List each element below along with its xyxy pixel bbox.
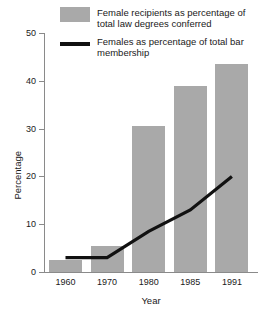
chart-figure: Female recipients as percentage of total… <box>0 0 263 318</box>
x-axis-title: Year <box>44 295 258 306</box>
x-tick-label: 1991 <box>210 277 254 287</box>
y-tick-label: 40 <box>14 76 36 86</box>
x-tick-label: 1980 <box>127 277 171 287</box>
y-tick-label: 50 <box>14 28 36 38</box>
x-tick-label: 1960 <box>44 277 88 287</box>
x-tick-label: 1985 <box>168 277 212 287</box>
line-series <box>44 33 258 273</box>
y-tick-label: 30 <box>14 124 36 134</box>
plot-area: Percentage 01020304050 19601970198019851… <box>44 33 258 273</box>
legend-bar-line2: total law degrees conferred <box>97 18 212 29</box>
legend-item-bar: Female recipients as percentage of total… <box>58 7 258 29</box>
legend-bar-swatch-icon <box>58 7 92 22</box>
legend-bar-line1: Female recipients as percentage of <box>97 7 245 18</box>
y-tick-label: 10 <box>14 219 36 229</box>
x-tick-label: 1970 <box>85 277 129 287</box>
legend-item-bar-label: Female recipients as percentage of total… <box>97 7 245 29</box>
y-tick-label: 20 <box>14 171 36 181</box>
y-tick-label: 0 <box>14 267 36 277</box>
